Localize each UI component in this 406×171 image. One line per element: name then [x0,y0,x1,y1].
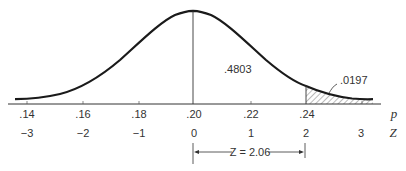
tail-label-leader [329,84,337,93]
z-tick-label: −1 [133,127,146,139]
z-axis-symbol: Z [389,125,397,140]
p-tick-label: .22 [243,108,258,120]
normal-curve [15,11,373,99]
p-tick-label: .20 [186,108,201,120]
p-tick-label: .18 [131,108,146,120]
p-tick-label: .14 [19,108,34,120]
z-tick-label: 3 [358,127,364,139]
p-axis-labels: .14 .16 .18 .20 .22 .24 p [19,106,397,121]
p-tick-label: .16 [75,108,90,120]
z-axis-labels: −3 −2 −1 0 1 2 3 Z [21,125,398,140]
p-tick-label: .24 [299,108,314,120]
tail-area-label: .0197 [340,74,368,86]
center-area-label: .4803 [224,63,252,75]
z-tick-label: −2 [77,127,90,139]
p-axis-symbol: p [390,106,398,121]
z-tick-label: −3 [21,127,34,139]
normal-curve-diagram: .4803 .0197 .14 .16 .18 .20 .22 .24 p −3… [0,0,406,171]
z-tick-label: 0 [191,127,197,139]
z-tick-label: 2 [303,127,309,139]
z-tick-label: 1 [248,127,254,139]
z-value-label: Z = 2.06 [230,146,271,158]
